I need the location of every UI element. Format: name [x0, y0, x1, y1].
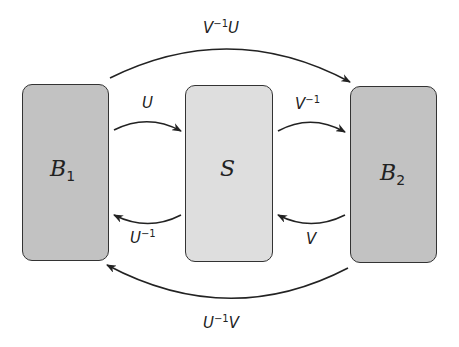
edge-label-s-b2: V−1 — [295, 94, 320, 113]
edge-label-b1-s: U — [142, 94, 153, 112]
edge-label-s-b1: U−1 — [130, 228, 156, 247]
arrow-b1-to-b2 — [110, 49, 350, 82]
node-s-label: S — [220, 156, 235, 181]
node-b2-label: B2 — [380, 160, 405, 188]
edge-label-b2-s: V — [306, 230, 316, 248]
node-b1-label: B1 — [50, 156, 75, 184]
arrow-b2-to-b1 — [107, 265, 348, 298]
edge-label-b1-b2: V−1U — [203, 18, 239, 37]
arrow-s-to-b1 — [114, 215, 181, 224]
edge-label-b2-b1: U−1V — [203, 313, 239, 332]
arrow-b2-to-s — [278, 215, 345, 224]
arrow-s-to-b2 — [278, 122, 345, 132]
arrow-b1-to-s — [114, 122, 181, 131]
